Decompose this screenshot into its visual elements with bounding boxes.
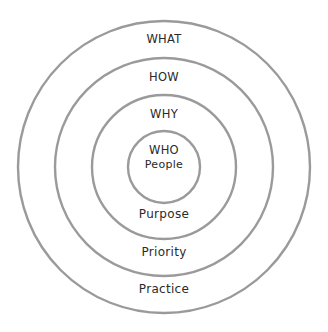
label-who: WHO <box>0 143 328 157</box>
label-purpose: Purpose <box>0 207 328 221</box>
label-priority: Priority <box>0 245 328 259</box>
label-what: WHAT <box>0 32 328 46</box>
label-how: HOW <box>0 70 328 84</box>
label-why: WHY <box>0 107 328 121</box>
label-people: People <box>0 158 328 171</box>
label-practice: Practice <box>0 282 328 296</box>
